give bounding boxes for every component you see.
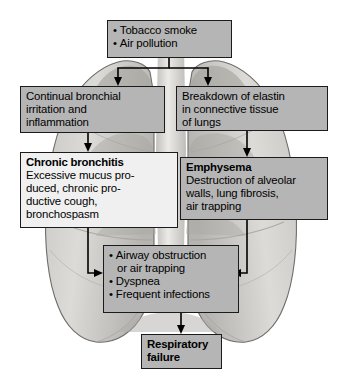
chronic-bronchitis-line-4: bronchospasm xyxy=(26,208,172,221)
causes-box: Tobacco smoke Air pollution xyxy=(107,20,232,58)
copd-pathophysiology-diagram: Tobacco smoke Air pollution Continual br… xyxy=(0,0,342,379)
respiratory-failure-line-1: Respiratory xyxy=(147,338,216,351)
bronchial-irritation-line-2: irritation and xyxy=(26,103,159,116)
emphysema-heading: Emphysema xyxy=(186,161,322,174)
chronic-bronchitis-line-3: ductive cough, xyxy=(26,195,172,208)
elastin-breakdown-line-1: Breakdown of elastin xyxy=(182,90,322,103)
emphysema-line-2: walls, lung fibrosis, xyxy=(186,187,322,200)
causes-line-1: Tobacco smoke xyxy=(113,24,226,37)
chronic-bronchitis-line-1: Excessive mucus pro- xyxy=(26,169,172,182)
manifestations-line-4: Frequent infections xyxy=(109,288,233,301)
respiratory-failure-box: Respiratory failure xyxy=(141,334,222,369)
emphysema-box: Emphysema Destruction of alveolar walls,… xyxy=(180,157,328,220)
manifestations-box: Airway obstruction or air trapping Dyspn… xyxy=(103,245,239,313)
manifestations-line-2: or air trapping xyxy=(109,262,233,275)
emphysema-line-3: air trapping xyxy=(186,200,322,213)
respiratory-failure-line-2: failure xyxy=(147,351,216,364)
manifestations-line-3: Dyspnea xyxy=(109,275,233,288)
emphysema-line-1: Destruction of alveolar xyxy=(186,174,322,187)
elastin-breakdown-box: Breakdown of elastin in connective tissu… xyxy=(176,86,328,131)
bronchial-irritation-line-1: Continual bronchial xyxy=(26,90,159,103)
causes-line-2: Air pollution xyxy=(113,37,226,50)
chronic-bronchitis-box: Chronic bronchitis Excessive mucus pro- … xyxy=(20,152,178,228)
elastin-breakdown-line-3: of lungs xyxy=(182,116,322,129)
chronic-bronchitis-heading: Chronic bronchitis xyxy=(26,156,172,169)
elastin-breakdown-line-2: in connective tissue xyxy=(182,103,322,116)
bronchial-irritation-line-3: inflammation xyxy=(26,116,159,129)
chronic-bronchitis-line-2: duced, chronic pro- xyxy=(26,182,172,195)
manifestations-line-1: Airway obstruction xyxy=(109,249,233,262)
bronchial-irritation-box: Continual bronchial irritation and infla… xyxy=(20,86,165,133)
